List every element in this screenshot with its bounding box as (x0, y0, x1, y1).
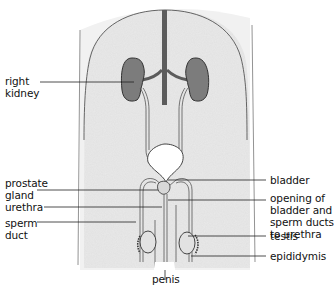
label-testis: testis (270, 230, 298, 242)
prostate-gland (158, 181, 170, 194)
label-penis: penis (152, 273, 180, 285)
label-epididymis: epididymis (270, 250, 326, 262)
label-right-kidney: right kidney (5, 75, 39, 99)
label-sperm-duct: sperm duct (5, 217, 37, 241)
label-prostate-gland: prostate gland (5, 177, 48, 201)
right-testis (140, 231, 156, 253)
label-urethra: urethra (5, 201, 43, 213)
left-testis (179, 232, 195, 254)
label-bladder: bladder (270, 174, 309, 186)
